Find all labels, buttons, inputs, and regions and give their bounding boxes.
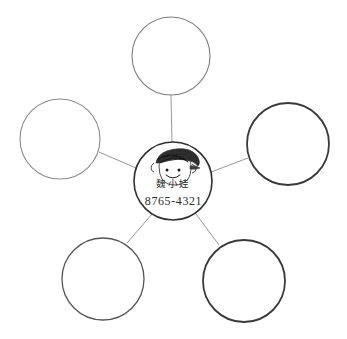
satellite-bubble-bottom-left[interactable] bbox=[62, 238, 144, 320]
bubble-map-canvas bbox=[0, 0, 347, 339]
satellite-bubble-top[interactable] bbox=[132, 17, 210, 95]
connector-center-to-top bbox=[171, 95, 172, 142]
connector-center-to-bottom-right bbox=[196, 214, 219, 245]
center-name-label: 魏小娃 bbox=[0, 179, 347, 189]
connector-center-to-bottom-left bbox=[127, 214, 152, 243]
satellite-bubble-left[interactable] bbox=[20, 99, 100, 179]
connector-center-to-right bbox=[211, 158, 248, 172]
connector-center-to-left bbox=[99, 152, 136, 168]
satellite-bubble-right[interactable] bbox=[247, 103, 329, 185]
bubble-map-diagram: 魏小娃 8765-4321 bbox=[0, 0, 347, 339]
center-phone-label: 8765-4321 bbox=[0, 195, 347, 207]
satellite-bubble-bottom-right[interactable] bbox=[203, 240, 285, 322]
